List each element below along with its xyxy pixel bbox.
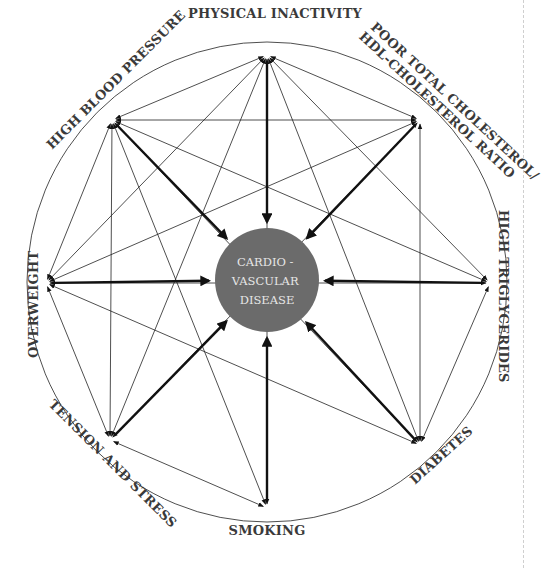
arrow-to-center-poor-cholesterol (307, 126, 414, 238)
center-label-line-2: VASCULAR (231, 274, 299, 288)
arrow-to-center-tension-and-stress (116, 321, 227, 434)
label-poor-cholesterol: POOR TOTAL CHOLESTEROL/ HDL-CHOLESTEROL … (356, 18, 542, 194)
center-label-line-3: DISEASE (240, 293, 295, 307)
interconnection-arrow (422, 287, 489, 442)
arrow-to-center-high-triglycerides (325, 281, 482, 283)
label-poor-cholesterol-line-2: HDL-CHOLESTEROL RATIO (356, 29, 518, 181)
arrow-to-center-overweight (54, 281, 209, 283)
label-high-triglycerides: HIGH TRIGLYCERIDES (496, 210, 511, 383)
label-overweight: OVERWEIGHT (26, 251, 41, 358)
risk-factor-diagram: CARDIO - VASCULAR DISEASE PHYSICAL INACT… (0, 0, 542, 568)
label-tension-and-stress: TENSION AND STRESS (46, 397, 180, 531)
label-poor-cholesterol-line-1: POOR TOTAL CHOLESTEROL/ (368, 19, 542, 183)
label-smoking: SMOKING (229, 523, 306, 538)
label-diabetes: DIABETES (407, 423, 476, 487)
arrow-to-center-diabetes (306, 323, 414, 440)
center-label-line-1: CARDIO - (237, 255, 294, 269)
arrow-to-center-high-blood-pressure (118, 126, 227, 239)
interconnection-arrow (110, 124, 112, 436)
center-label: CARDIO - VASCULAR DISEASE (231, 255, 302, 307)
label-physical-inactivity: PHYSICAL INACTIVITY (188, 6, 363, 21)
